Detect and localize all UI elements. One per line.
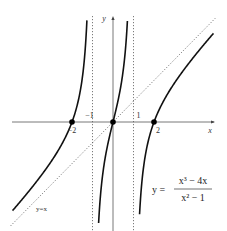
asymptote-label: y=x: [36, 205, 47, 213]
function-plot: −2−112xyy=xy =x³ − 4xx² − 1: [0, 0, 227, 231]
x-tick-label: 2: [156, 126, 160, 135]
x-axis-label: x: [207, 126, 212, 135]
curve-branch-3: [140, 33, 214, 214]
x-tick-label: −2: [68, 126, 77, 135]
x-tick-label: −1: [85, 111, 94, 120]
formula-lhs: y =: [152, 184, 166, 195]
y-axis-arrow: [111, 16, 114, 20]
y-axis-label: y: [101, 14, 106, 23]
zero-point: [151, 119, 157, 125]
zero-point: [110, 119, 116, 125]
formula-denominator: x² − 1: [181, 192, 205, 203]
function-formula: y =x³ − 4xx² − 1: [152, 175, 212, 203]
curve-branch-1: [13, 20, 87, 210]
zero-point: [69, 119, 75, 125]
x-axis-arrow: [211, 120, 215, 123]
x-tick-label: 1: [137, 111, 141, 120]
formula-numerator: x³ − 4x: [179, 175, 208, 186]
